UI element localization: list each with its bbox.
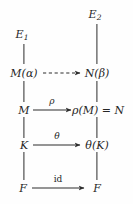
node-e1: E1	[16, 29, 29, 43]
node-theta-k: θ(K)	[85, 140, 108, 151]
node-m: M	[18, 105, 29, 116]
node-e2-subscript: 2	[97, 13, 102, 22]
arrow-label-theta: θ	[54, 132, 59, 141]
arrow-label-rho: ρ	[49, 97, 54, 106]
node-m-alpha: M(α)	[10, 68, 37, 79]
node-f-left: F	[19, 183, 27, 194]
node-f-right: F	[93, 183, 101, 194]
node-e2: E2	[89, 9, 102, 23]
node-rho-m-equals-n: ρ(M) = N	[72, 105, 124, 116]
node-k: K	[20, 140, 28, 151]
arrow-label-id: id	[54, 175, 63, 184]
node-e1-subscript: 1	[24, 33, 29, 42]
node-e2-base: E	[89, 8, 97, 21]
node-n-beta: N(β)	[85, 68, 110, 79]
math-diagram-canvas: E1 M(α) M K F E2 N(β) ρ(M) = N θ(K) F ρ …	[0, 0, 133, 204]
node-e1-base: E	[16, 28, 24, 41]
